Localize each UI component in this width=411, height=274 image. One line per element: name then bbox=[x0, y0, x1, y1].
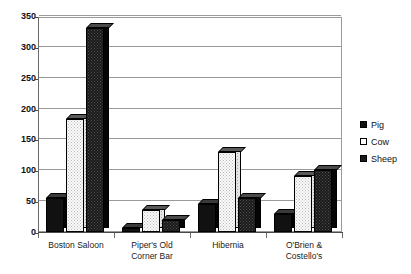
bar-group-3 bbox=[191, 16, 267, 232]
bar-top-face bbox=[218, 147, 246, 152]
category-label-line: Corner Bar bbox=[114, 251, 190, 262]
legend-item-sheep[interactable]: Sheep bbox=[360, 150, 410, 167]
bar-front-face bbox=[86, 28, 104, 232]
bar-cow-2 bbox=[142, 205, 160, 232]
category-label-line: Costello's bbox=[266, 251, 342, 262]
bar-pig-4 bbox=[274, 209, 292, 233]
bar-top-face bbox=[314, 165, 342, 170]
category-label-2: Piper's OldCorner Bar bbox=[114, 240, 190, 262]
legend-item-cow[interactable]: Cow bbox=[360, 133, 410, 150]
chart-legend: PigCowSheep bbox=[360, 116, 410, 167]
y-tick-label-300: 300 bbox=[4, 43, 36, 52]
y-tick-label-0: 0 bbox=[4, 228, 36, 237]
bar-sheep-1 bbox=[86, 23, 104, 232]
y-tick-label-350: 350 bbox=[4, 12, 36, 21]
category-label-line: O'Brien & bbox=[266, 240, 342, 251]
bar-front-face bbox=[46, 198, 64, 232]
bar-top-face bbox=[86, 23, 114, 28]
category-label-line: Piper's Old bbox=[114, 240, 190, 251]
bar-side-face bbox=[332, 166, 337, 228]
category-label-1: Boston Saloon bbox=[38, 240, 114, 251]
bar-chart: 050100150200250300350 Boston SaloonPiper… bbox=[0, 0, 411, 274]
bar-pig-3 bbox=[198, 199, 216, 232]
bar-front-face bbox=[198, 204, 216, 232]
bar-top-face bbox=[142, 205, 170, 210]
legend-label-pig: Pig bbox=[371, 120, 384, 130]
bar-sheep-2 bbox=[162, 215, 180, 232]
bar-pig-2 bbox=[122, 223, 140, 232]
bar-front-face bbox=[142, 210, 160, 232]
bar-cow-3 bbox=[218, 147, 236, 232]
bar-pig-1 bbox=[46, 193, 64, 232]
bar-group-1 bbox=[39, 16, 115, 232]
category-label-4: O'Brien &Costello's bbox=[266, 240, 342, 262]
y-tick-label-100: 100 bbox=[4, 166, 36, 175]
y-tick-label-250: 250 bbox=[4, 74, 36, 83]
legend-label-cow: Cow bbox=[371, 137, 389, 147]
bar-front-face bbox=[274, 214, 292, 233]
legend-item-pig[interactable]: Pig bbox=[360, 116, 410, 133]
bar-side-face bbox=[104, 24, 109, 228]
bar-front-face bbox=[294, 176, 312, 232]
bar-top-face bbox=[162, 215, 190, 220]
category-label-line: Hibernia bbox=[190, 240, 266, 251]
bar-top-face bbox=[238, 193, 266, 198]
y-tick-label-50: 50 bbox=[4, 197, 36, 206]
category-tick-0 bbox=[38, 233, 39, 238]
bar-front-face bbox=[218, 152, 236, 232]
bar-sheep-4 bbox=[314, 165, 332, 232]
bar-side-face bbox=[256, 194, 261, 228]
bar-front-face bbox=[66, 119, 84, 232]
legend-swatch-pig-icon bbox=[360, 121, 367, 128]
bar-group-2 bbox=[115, 16, 191, 232]
y-tick-label-200: 200 bbox=[4, 105, 36, 114]
y-tick-label-150: 150 bbox=[4, 135, 36, 144]
bar-front-face bbox=[162, 220, 180, 232]
category-tick-4 bbox=[342, 233, 343, 238]
category-label-line: Boston Saloon bbox=[38, 240, 114, 251]
bar-front-face bbox=[314, 170, 332, 232]
category-tick-3 bbox=[266, 233, 267, 238]
legend-label-sheep: Sheep bbox=[371, 154, 397, 164]
bar-sheep-3 bbox=[238, 193, 256, 232]
y-axis-tick-labels: 050100150200250300350 bbox=[0, 0, 36, 274]
category-label-3: Hibernia bbox=[190, 240, 266, 251]
legend-swatch-sheep-icon bbox=[360, 155, 367, 162]
legend-swatch-cow-icon bbox=[360, 138, 367, 145]
plot-area bbox=[38, 17, 342, 233]
y-axis-line bbox=[38, 17, 39, 233]
bar-front-face bbox=[238, 198, 256, 232]
bar-cow-4 bbox=[294, 171, 312, 232]
bar-cow-1 bbox=[66, 114, 84, 232]
category-tick-2 bbox=[190, 233, 191, 238]
category-tick-1 bbox=[114, 233, 115, 238]
bar-group-4 bbox=[267, 16, 343, 232]
